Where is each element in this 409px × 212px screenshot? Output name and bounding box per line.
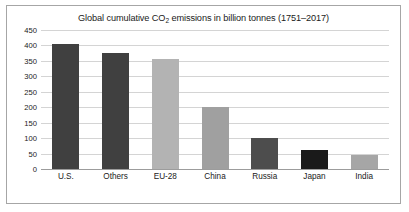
gridline: 0 [41,169,389,170]
bar-others [102,53,129,169]
bar-slot [339,30,389,169]
x-axis-tick-label: Others [91,172,141,181]
y-axis-tick-label: 50 [29,149,37,158]
bar-russia [251,138,278,169]
y-axis-tick-label: 0 [33,165,37,174]
chart-title: Global cumulative CO2 emissions in billi… [7,13,400,23]
y-axis-tick-label: 250 [24,87,37,96]
bar-slot [41,30,91,169]
y-axis-tick-label: 300 [24,72,37,81]
y-axis-tick-label: 400 [24,41,37,50]
x-axis-tick-label: U.S. [41,172,91,181]
chart-title-subscript: 2 [165,17,169,24]
bar-slot [290,30,340,169]
y-axis-tick-label: 450 [24,26,37,35]
bar-series [41,30,389,169]
plot-area: 050100150200250300350400450 [41,30,389,169]
bar-u-s [52,44,79,169]
bar-eu-28 [152,59,179,169]
y-axis-tick-label: 200 [24,103,37,112]
x-axis-tick-label: Russia [240,172,290,181]
bar-slot [240,30,290,169]
x-axis-tick-label: Japan [290,172,340,181]
x-axis-tick-label: India [339,172,389,181]
bar-india [351,155,378,169]
y-axis-tick-label: 100 [24,134,37,143]
x-axis-labels: U.S.OthersEU-28ChinaRussiaJapanIndia [41,172,389,181]
chart-frame: Global cumulative CO2 emissions in billi… [6,5,401,204]
y-axis-tick-label: 350 [24,56,37,65]
bar-slot [140,30,190,169]
chart-title-prefix: Global cumulative CO [78,13,165,23]
chart-title-suffix: emissions in billion tonnes (1751–2017) [169,13,329,23]
y-axis-tick-label: 150 [24,118,37,127]
bar-slot [91,30,141,169]
x-axis-tick-label: China [190,172,240,181]
bar-slot [190,30,240,169]
bar-japan [301,150,328,169]
bar-china [202,107,229,169]
x-axis-tick-label: EU-28 [140,172,190,181]
